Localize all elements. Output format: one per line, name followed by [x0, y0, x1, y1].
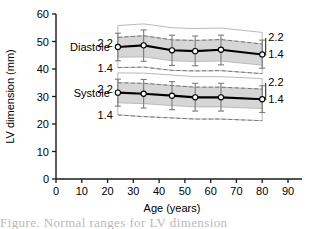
- right-limit-label-lower-systole: 1.4: [268, 93, 283, 105]
- data-point-marker: [193, 95, 198, 100]
- figure-container: 01020304050600102030405060708090 Diastol…: [0, 0, 319, 229]
- y-axis-tick-label: 10: [37, 146, 49, 158]
- left-limit-label-upper-diastole: 2.2: [98, 37, 113, 49]
- x-axis-tick-label: 30: [127, 185, 139, 197]
- lv-dimension-chart: 01020304050600102030405060708090 Diastol…: [0, 0, 319, 229]
- data-point-marker: [115, 44, 120, 49]
- y-axis-tick-label: 0: [43, 173, 49, 185]
- data-point-marker: [141, 91, 146, 96]
- x-axis-tick-label: 70: [230, 185, 242, 197]
- y-axis-tick-label: 20: [37, 118, 49, 130]
- x-axis-tick-label: 40: [153, 185, 165, 197]
- confidence-bands-group: [118, 24, 262, 121]
- figure-caption: Figure. Normal ranges for LV dimension: [0, 215, 319, 229]
- y-axis-tick-label: 40: [37, 63, 49, 75]
- data-point-marker: [169, 48, 174, 53]
- right-limit-label-upper-systole: 2.2: [268, 76, 283, 88]
- x-axis-tick-label: 0: [53, 185, 59, 197]
- left-limit-label-upper-systole: 2.2: [98, 83, 113, 95]
- y-axis-tick-label: 60: [37, 8, 49, 20]
- y-axis-tick-label: 50: [37, 36, 49, 48]
- data-point-marker: [193, 49, 198, 54]
- data-point-marker: [260, 52, 265, 57]
- x-axis-tick-label: 20: [101, 185, 113, 197]
- x-axis-tick-label: 60: [205, 185, 217, 197]
- x-axis-tick-label: 10: [76, 185, 88, 197]
- data-point-marker: [260, 97, 265, 102]
- data-point-marker: [218, 47, 223, 52]
- left-limit-label-lower-systole: 1.4: [98, 109, 113, 121]
- data-point-marker: [218, 95, 223, 100]
- x-axis-tick-label: 50: [179, 185, 191, 197]
- right-limit-label-lower-diastole: 1.4: [268, 48, 283, 60]
- y-axis-label: LV dimension (mm): [4, 49, 16, 144]
- x-axis-tick-label: 80: [256, 185, 268, 197]
- right-limit-label-upper-diastole: 2.2: [268, 31, 283, 43]
- data-point-marker: [115, 90, 120, 95]
- x-axis-tick-label: 90: [282, 185, 294, 197]
- x-axis-label: Age (years): [144, 202, 201, 214]
- left-limit-label-lower-diastole: 1.4: [98, 62, 113, 74]
- data-point-marker: [169, 93, 174, 98]
- y-axis-tick-label: 30: [37, 91, 49, 103]
- data-point-marker: [141, 43, 146, 48]
